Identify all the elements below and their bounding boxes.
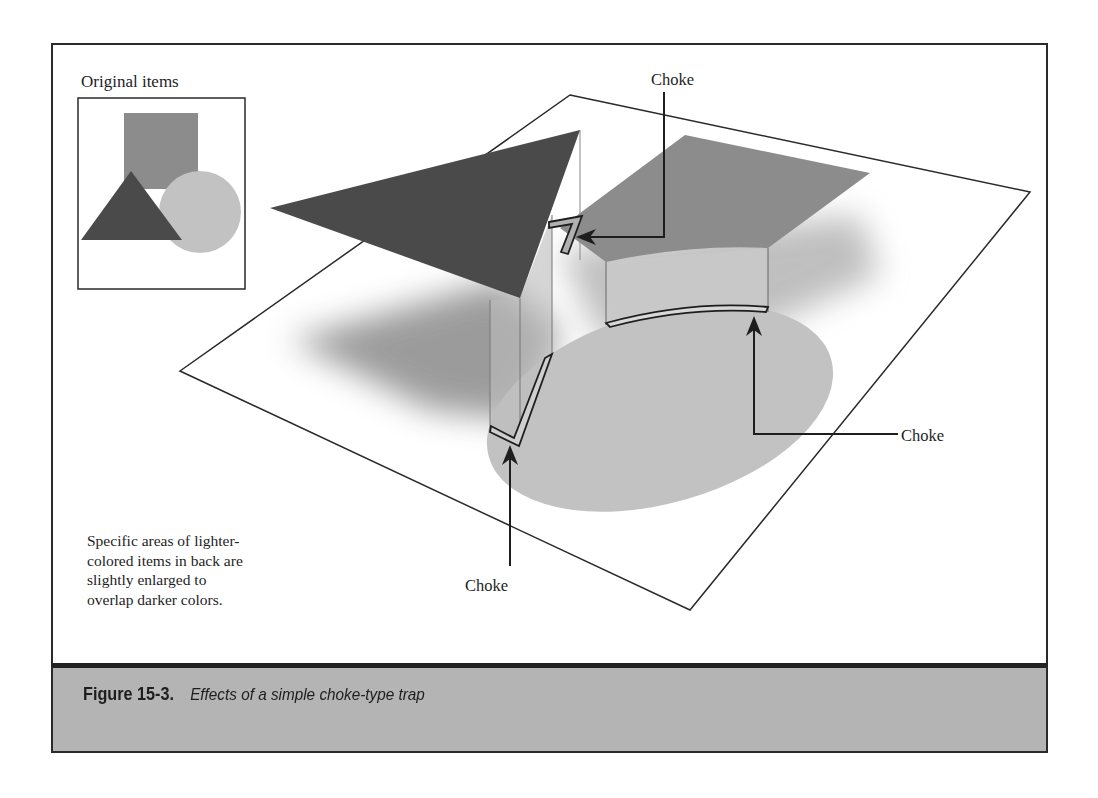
figure-caption: Figure 15-3.Effects of a simple choke-ty… <box>51 663 1048 753</box>
note-line: colored items in back are <box>87 551 262 571</box>
note-line: overlap darker colors. <box>87 590 262 610</box>
inset-title: Original items <box>81 72 179 92</box>
choke-label-top: Choke <box>651 70 694 89</box>
original-items-inset <box>78 98 245 289</box>
caption-description: Effects of a simple choke-type trap <box>190 685 425 704</box>
inset-circle-icon <box>159 171 241 253</box>
caption-label: Figure 15-3. <box>83 684 174 704</box>
choke-label-bottom: Choke <box>465 576 508 595</box>
caption-text: Figure 15-3.Effects of a simple choke-ty… <box>83 684 425 705</box>
note-line: slightly enlarged to <box>87 570 262 590</box>
choke-label-right: Choke <box>901 426 944 445</box>
explanatory-note: Specific areas of lighter- colored items… <box>87 531 262 609</box>
note-line: Specific areas of lighter- <box>87 531 262 551</box>
